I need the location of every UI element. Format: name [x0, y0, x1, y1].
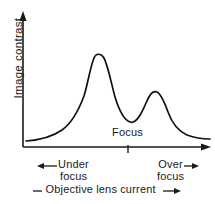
- over-focus-line2: focus: [157, 171, 184, 183]
- under-focus-arrowhead: [37, 163, 44, 169]
- y-axis-label-word2: contrast: [12, 18, 24, 61]
- caption-word3: current: [119, 184, 158, 196]
- caption-arrowhead: [174, 188, 181, 194]
- under-focus-line1: Under: [58, 158, 89, 170]
- under-focus-label: Underfocus: [58, 159, 89, 182]
- over-focus-arrowhead: [192, 163, 199, 169]
- x-axis-arrowhead: [201, 143, 211, 150]
- x-axis-caption: Objectivelenscurrent: [44, 184, 157, 196]
- over-focus-label: Overfocus: [157, 159, 184, 182]
- over-focus-line1: Over: [158, 158, 183, 170]
- under-focus-line2: focus: [58, 171, 89, 183]
- caption-word1: Objective: [44, 184, 95, 196]
- figure-container: Imagecontrast Focus Underfocus Overfocus…: [0, 0, 215, 204]
- y-axis-label: Imagecontrast: [12, 10, 24, 106]
- y-axis-label-word1: Image: [12, 65, 24, 98]
- focus-label: Focus: [112, 127, 143, 139]
- caption-word2: lens: [95, 184, 119, 196]
